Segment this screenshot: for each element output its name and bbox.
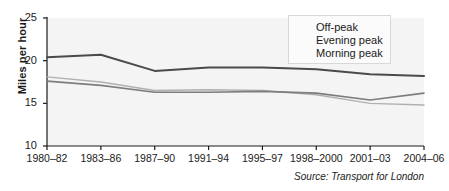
source-note: Source: Transport for London bbox=[294, 171, 424, 182]
legend-item-morning-peak: Morning peak bbox=[294, 46, 383, 59]
chart-legend: Off-peak Evening peak Morning peak bbox=[288, 15, 391, 64]
legend-label-morning-peak: Morning peak bbox=[316, 47, 383, 59]
legend-label-off-peak: Off-peak bbox=[316, 21, 358, 33]
legend-item-off-peak: Off-peak bbox=[294, 20, 383, 33]
legend-item-evening-peak: Evening peak bbox=[294, 33, 383, 46]
legend-label-evening-peak: Evening peak bbox=[316, 34, 383, 46]
